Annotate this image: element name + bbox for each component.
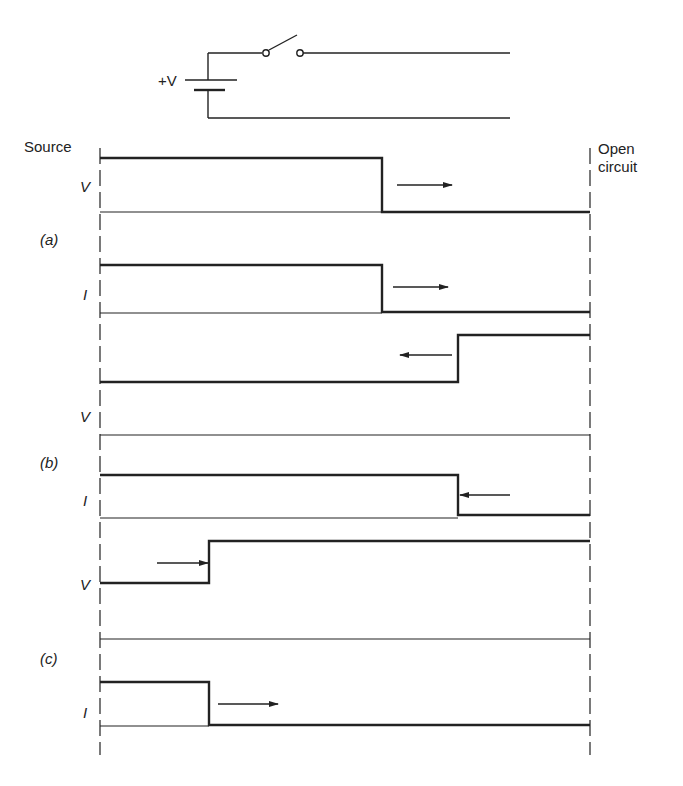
switch-icon xyxy=(263,35,303,56)
open-circuit-label-line1: Open xyxy=(598,140,635,157)
a-current-label: I xyxy=(83,286,87,303)
a-current-waveform xyxy=(100,265,590,312)
battery-label: +V xyxy=(158,72,177,89)
case-b-label: (b) xyxy=(40,454,58,471)
c-current-waveform xyxy=(100,682,590,725)
b-current-waveform xyxy=(100,475,590,515)
a-voltage-waveform xyxy=(100,158,590,212)
case-c-label: (c) xyxy=(40,650,58,667)
c-current-label: I xyxy=(83,704,87,721)
case-a-label: (a) xyxy=(40,231,58,248)
a-voltage-label: V xyxy=(80,178,92,195)
c-voltage-waveform xyxy=(100,541,590,583)
source-label: Source xyxy=(24,138,72,155)
c-voltage-label: V xyxy=(80,576,92,593)
circuit-schematic xyxy=(185,35,510,118)
b-voltage-label: V xyxy=(80,408,92,425)
b-current-label: I xyxy=(83,492,87,509)
battery-icon xyxy=(185,53,237,118)
transmission-line-reflection-diagram: +V Source Open circuit (a) V I (b) V I (… xyxy=(0,0,683,786)
b-voltage-waveform xyxy=(100,335,590,382)
open-circuit-label-line2: circuit xyxy=(598,158,638,175)
